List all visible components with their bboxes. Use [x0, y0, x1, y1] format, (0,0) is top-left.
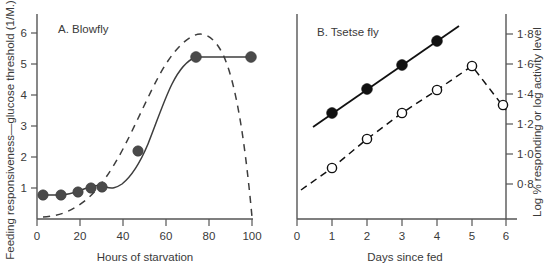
panel-b-ytick-1-0: 1·0: [517, 148, 534, 160]
panel-b-xtick-3: 3: [399, 230, 405, 242]
panel-a-ytick-6: 6: [21, 27, 27, 39]
panel-a-solid-curve: [43, 57, 196, 195]
panel-b-filled-point-1: [327, 108, 338, 119]
panel-a-point-1: [38, 190, 48, 200]
panel-a-x-axis-label: Hours of starvation: [97, 251, 194, 263]
panel-b-open-point-3: [397, 108, 406, 117]
panel-a-plot: Feeding responsiveness—glucose threshold…: [0, 0, 277, 272]
panel-b-open-point-5: [467, 61, 476, 70]
panel-a-xtick-40: 40: [117, 230, 130, 242]
panel-a-x-ticks: [37, 219, 252, 226]
panel-b-xtick-1: 1: [329, 230, 335, 242]
panel-a-point-8: [246, 52, 257, 63]
panel-b-y-ticks: [506, 34, 513, 184]
panel-a-xtick-20: 20: [74, 230, 87, 242]
panel-b-open-markers: [327, 61, 507, 172]
panel-b-open-point-6: [498, 100, 507, 109]
panel-b-tsetse-fly: Log % responding or log activity level 1…: [277, 0, 553, 272]
panel-b-ytick-1-4: 1·4: [517, 88, 534, 100]
panel-b-ytick-1-8: 1·8: [517, 28, 534, 40]
panel-b-ytick-1-6: 1·6: [517, 58, 534, 70]
panel-b-x-ticks: [297, 219, 506, 226]
panel-b-open-point-2: [362, 134, 371, 143]
panel-a-point-5: [97, 182, 107, 192]
panel-a-point-4: [86, 183, 96, 193]
panel-a-y-axis-label: Feeding responsiveness—glucose threshold…: [4, 0, 16, 260]
panel-a-title: A. Blowfly: [58, 23, 109, 35]
panel-b-xtick-5: 5: [469, 230, 475, 242]
panel-b-ytick-1-2: 1·2: [517, 118, 534, 130]
panel-b-xtick-2: 2: [364, 230, 370, 242]
panel-a-point-7: [191, 52, 202, 63]
panel-b-xtick-4: 4: [434, 230, 441, 242]
panel-a-xtick-0: 0: [34, 230, 40, 242]
panel-a-point-3: [73, 187, 83, 197]
panel-a-xtick-60: 60: [160, 230, 173, 242]
panel-a-blowfly: Feeding responsiveness—glucose threshold…: [0, 0, 277, 272]
panel-b-open-point-4: [432, 85, 441, 94]
panel-a-xtick-80: 80: [203, 230, 216, 242]
panel-a-point-6: [133, 146, 143, 156]
panel-a-ytick-1: 1: [21, 182, 27, 194]
panel-a-xtick-100: 100: [242, 230, 261, 242]
panel-a-point-2: [56, 190, 66, 200]
panel-b-filled-point-2: [362, 84, 373, 95]
panel-b-open-point-1: [327, 163, 336, 172]
panel-b-filled-point-4: [432, 36, 443, 47]
panel-a-y-ticks: [31, 33, 37, 188]
panel-a-data-markers: [38, 52, 257, 201]
panel-b-plot: Log % responding or log activity level 1…: [277, 0, 553, 272]
panel-b-ytick-0-8: 0·8: [517, 178, 534, 190]
panel-b-x-axis-label: Days since fed: [367, 251, 442, 263]
panel-b-xtick-6: 6: [503, 230, 509, 242]
panel-b-xtick-0: 0: [294, 230, 300, 242]
panel-b-filled-point-3: [397, 60, 408, 71]
panel-a-ytick-5: 5: [21, 58, 27, 70]
panel-b-title: B. Tsetse fly: [317, 26, 379, 38]
panel-a-ytick-2: 2: [21, 151, 27, 163]
panel-a-ytick-4: 4: [21, 89, 28, 101]
figure-container: Feeding responsiveness—glucose threshold…: [0, 0, 553, 272]
panel-a-ytick-3: 3: [21, 120, 27, 132]
